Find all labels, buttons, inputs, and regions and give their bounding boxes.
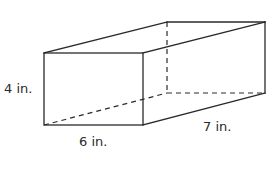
edge-top-left-depth [44, 22, 167, 53]
height-label: 4 in. [4, 82, 32, 95]
depth-label: 7 in. [203, 120, 231, 133]
edge-top-right-depth [143, 22, 265, 53]
rectangular-prism-diagram [0, 0, 280, 169]
width-label: 6 in. [79, 135, 107, 148]
hidden-edge-bottom-left-depth [44, 93, 167, 125]
front-face [44, 53, 143, 125]
